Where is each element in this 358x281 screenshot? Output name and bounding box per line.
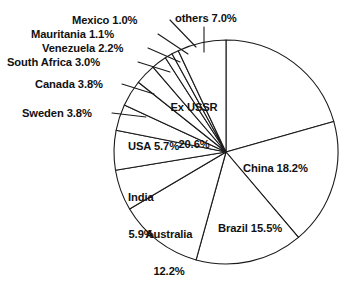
slice-label-sweden: Sweden 3.8% <box>22 107 92 119</box>
slice-label-south-africa: South Africa 3.0% <box>7 56 100 68</box>
slice-label-brazil: Brazil 15.5% <box>218 222 282 234</box>
slice-label-mauritania: Mauritania 1.1% <box>31 28 114 40</box>
slice-label-ex-ussr-line1: Ex USSR <box>152 101 236 113</box>
slice-label-venezuela: Venezuela 2.2% <box>42 42 123 54</box>
slice-label-usa: USA 5.7% <box>128 140 179 152</box>
slice-label-india-line1: India <box>128 191 154 203</box>
slice-label-mexico: Mexico 1.0% <box>72 14 137 26</box>
slice-label-canada: Canada 3.8% <box>35 78 103 90</box>
pie-chart: Ex USSR 20.6% China 18.2% Brazil 15.5% A… <box>0 0 358 281</box>
slice-label-australia-line2: 12.2% <box>132 265 206 277</box>
slice-label-others: others 7.0% <box>175 12 237 24</box>
slice-label-ex-ussr: Ex USSR 20.6% <box>152 76 236 175</box>
slice-label-india: India 5.9% <box>128 166 154 265</box>
slice-label-india-line2: 5.9% <box>128 228 154 240</box>
slice-label-china: China 18.2% <box>243 162 308 174</box>
leader-line-mauritania <box>158 34 188 54</box>
